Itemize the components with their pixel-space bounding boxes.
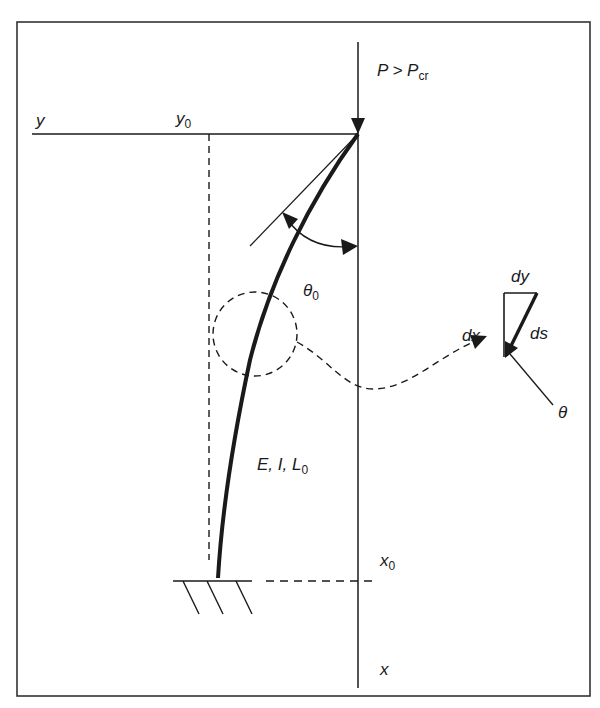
y0-label: y0 bbox=[175, 109, 192, 131]
x-axis-label: x bbox=[379, 660, 389, 679]
theta-label: θ bbox=[558, 403, 568, 422]
detail-leader-line bbox=[297, 340, 478, 389]
support-hatch-3 bbox=[236, 581, 252, 614]
detail-circle bbox=[213, 292, 297, 376]
properties-label: E, I, L0 bbox=[257, 455, 308, 477]
load-label: P > Pcr bbox=[377, 61, 428, 83]
support-hatch-2 bbox=[207, 581, 223, 614]
buckled-column bbox=[218, 134, 358, 578]
dx-label: dx bbox=[462, 326, 480, 345]
theta0-label: θ0 bbox=[303, 281, 319, 303]
theta0-arrow-left-icon bbox=[282, 212, 298, 229]
figure-frame bbox=[17, 22, 590, 696]
y-axis-label: y bbox=[35, 111, 46, 130]
support-hatch-1 bbox=[183, 581, 199, 614]
ds-label: ds bbox=[530, 324, 548, 343]
load-arrow-icon bbox=[351, 118, 365, 134]
tangent-line bbox=[250, 134, 358, 246]
theta-leader-line bbox=[510, 354, 553, 405]
theta0-arrow-right-icon bbox=[341, 239, 358, 255]
x0-label: x0 bbox=[379, 551, 396, 573]
buckled-column-diagram: P > Pcr y y0 θ0 dx dy ds θ E, I, L0 x0 x bbox=[0, 0, 600, 708]
dy-label: dy bbox=[511, 267, 530, 286]
